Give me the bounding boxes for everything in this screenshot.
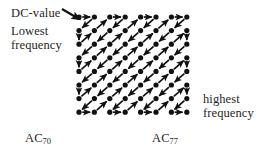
label-highest-frequency-line1: highest (203, 92, 240, 106)
label-ac-77: AC77 (152, 131, 178, 148)
label-lowest-frequency-line1: Lowest (11, 24, 48, 38)
dc-value-pointer-arrow (62, 9, 79, 19)
zigzag-scan-figure: DC-value Lowest frequency highest freque… (0, 0, 277, 156)
ac-77-subscript: 77 (170, 136, 179, 146)
label-dc-value: DC-value (11, 6, 60, 20)
label-highest-frequency-line2: frequency (203, 106, 254, 120)
ac-77-base: AC (152, 131, 170, 145)
label-ac-70: AC70 (25, 131, 51, 148)
label-lowest-frequency-line2: frequency (11, 38, 62, 52)
ac-70-subscript: 70 (43, 136, 52, 146)
ac-70-base: AC (25, 131, 43, 145)
